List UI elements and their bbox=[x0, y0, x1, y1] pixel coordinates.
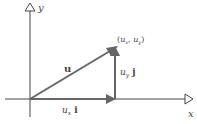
vector-u-label: u bbox=[64, 63, 71, 74]
y-axis-label: y bbox=[37, 2, 44, 13]
vector-uy-j bbox=[110, 46, 120, 99]
point-label: (ux, uy) bbox=[117, 35, 144, 46]
vector-u bbox=[30, 46, 118, 99]
vector-uy-label: uyj bbox=[120, 67, 135, 79]
vector-decomposition-diagram: y x u uxi uyj (ux, uy) bbox=[0, 0, 197, 124]
vector-ux-i bbox=[30, 94, 116, 104]
y-axis-arrow-icon bbox=[25, 3, 35, 11]
x-axis-arrow-icon bbox=[185, 94, 193, 104]
x-axis-label: x bbox=[188, 108, 194, 119]
vector-ux-label: uxi bbox=[62, 105, 78, 116]
